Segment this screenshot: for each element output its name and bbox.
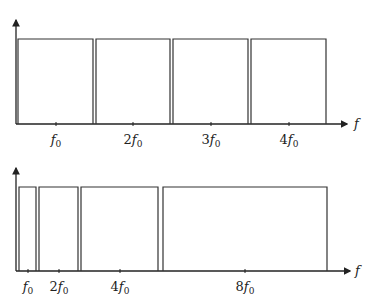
tick-label: 3f0: [202, 132, 221, 149]
tick-label: 8f0: [236, 279, 255, 296]
uniform-bands-plot: f02f03f04f0f: [16, 20, 361, 149]
tick-label: f0: [50, 132, 62, 149]
filter-bank-diagram: f02f03f04f0f f02f04f08f0f: [0, 0, 374, 304]
band-rect: [173, 39, 248, 124]
band-rect: [163, 187, 327, 271]
tick-label: 4f0: [111, 279, 130, 296]
band-rect: [39, 187, 78, 271]
tick-label: 2f0: [124, 132, 143, 149]
band-rect: [81, 187, 158, 271]
octave-bands-plot: f02f04f08f0f: [16, 168, 362, 296]
band-rect: [96, 39, 170, 124]
band-rect: [251, 39, 326, 124]
axis-label-f: f: [354, 263, 362, 278]
tick-label: 4f0: [280, 132, 299, 149]
axis-label-f: f: [353, 116, 361, 131]
band-rect: [19, 187, 36, 271]
band-rect: [18, 39, 93, 124]
tick-label: f0: [22, 279, 34, 296]
tick-label: 2f0: [50, 279, 69, 296]
